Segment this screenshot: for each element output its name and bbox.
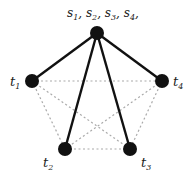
edge-s-t3 [97, 33, 130, 149]
edge-s-t2 [65, 33, 97, 149]
nodes [25, 26, 169, 156]
node-t3 [123, 142, 137, 156]
solid-edges [32, 33, 162, 149]
label-t3: t3 [141, 155, 151, 172]
edge-t4-t3 [130, 81, 162, 149]
label-t1: t1 [10, 74, 20, 91]
node-t1 [25, 74, 39, 88]
label-t4: t4 [173, 74, 183, 91]
edge-s-t4 [97, 33, 162, 81]
edge-s-t1 [32, 33, 97, 81]
graph-diagram: s1, s2, s3, s4, t1 t4 t2 t3 [0, 0, 193, 181]
edge-t1-t2 [32, 81, 65, 149]
label-hub: s1, s2, s3, s4, [67, 6, 139, 22]
node-t2 [58, 142, 72, 156]
node-t4 [155, 74, 169, 88]
node-s [90, 26, 104, 40]
label-t2: t2 [43, 155, 53, 172]
dotted-edges [32, 81, 162, 149]
